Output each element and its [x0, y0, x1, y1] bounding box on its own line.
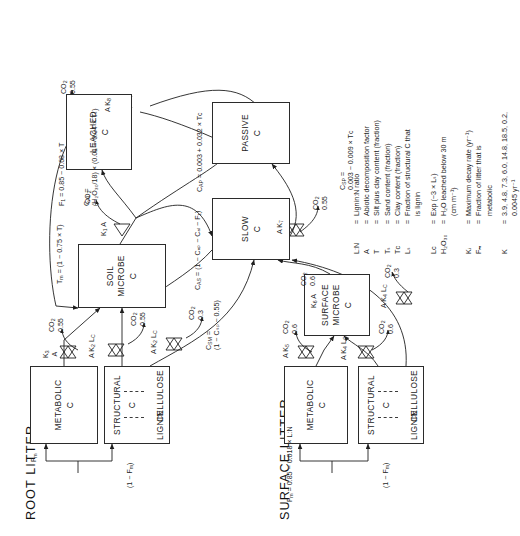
- rate-root-metabolic: K3 A: [42, 350, 59, 358]
- rate-slow: A K7: [276, 220, 285, 234]
- legend-equals: =: [383, 216, 393, 224]
- equation-csm: CSM = (1 − Cₛₚ − 0.55): [196, 300, 222, 350]
- legend-symbol: Kᵢ: [464, 224, 474, 254]
- pool-root-metabolic-name: METABOLIC: [53, 380, 64, 431]
- legend-row: K=3.9, 4.8, 7.3, 6.0, 14.8, 18.5, 0.2, 0…: [500, 112, 520, 254]
- pool-root-structural-name: STRUCTURAL: [112, 367, 123, 443]
- pool-root-metabolic[interactable]: METABOLIC C: [30, 366, 98, 444]
- equation-cal: CAL = (H₂O₃₀/18) × (0.01 + 0.04 × Tₛ): [74, 108, 100, 206]
- legend-equals: =: [439, 216, 459, 224]
- pool-root-structural-unit: C: [127, 367, 138, 443]
- arrow-surface-metabolic-to-surface-microbe: [316, 336, 334, 366]
- legend-equals: =: [500, 216, 520, 224]
- label-root-structural-fraction: (1 − Fm): [126, 463, 135, 488]
- legend-equals: =: [393, 216, 403, 224]
- pool-surface-structural-name: STRUCTURAL: [366, 367, 377, 443]
- equation-tm: Tm = (1 − 0.75 × T): [56, 224, 65, 284]
- equation-f1: F1 = 0.85 − 0.68 × T: [58, 143, 67, 206]
- rate-surface-structural-cellulose: A K4 LC: [340, 336, 349, 360]
- valve-soil-microbe: [114, 224, 130, 236]
- co2-label-surface-microbe: CO2 0.6: [300, 272, 317, 286]
- pool-root-metabolic-unit: C: [65, 402, 76, 408]
- arrow-soil-microbe-to-leached: [102, 170, 136, 218]
- legend-equals: =: [464, 216, 474, 224]
- legend-row: H₂O₃₀=H₂O leached below 30 m (cm m⁻¹): [439, 112, 459, 254]
- pool-surface-metabolic-name: METABOLIC: [305, 380, 316, 431]
- pool-slow-unit: C: [252, 226, 263, 232]
- pool-leached-unit: C: [100, 129, 111, 135]
- co2-label-leached-return: CO2 0.55: [60, 80, 77, 94]
- legend-symbol: L:N: [352, 224, 362, 254]
- pool-passive[interactable]: PASSIVE C: [212, 102, 290, 164]
- co2-label-surface-lignin: CO2 0.3: [384, 264, 401, 278]
- legend-definition: Clay content (fraction): [393, 146, 403, 216]
- rate-passive-out: A K8: [104, 98, 113, 112]
- structural-divider-right: [124, 391, 144, 392]
- line-soil-microbe-out: [120, 218, 136, 244]
- legend-symbol: Lₛ: [403, 224, 423, 254]
- legend-definition: Lignin:N ratio: [352, 174, 362, 216]
- legend-equals: =: [403, 216, 423, 224]
- rate-surface-microbe: K6 A: [310, 294, 319, 308]
- legend-equals: =: [352, 216, 362, 224]
- pool-surface-structural-unit: C: [381, 367, 392, 443]
- structural-divider-left: [124, 417, 144, 418]
- legend-row: Tᴄ=Clay content (fraction): [393, 112, 403, 254]
- pool-soil-microbe[interactable]: SOIL MICROBE C: [78, 244, 166, 308]
- legend-symbol: T: [372, 224, 382, 254]
- rate-surface-structural-lignin: A K4 LC: [380, 284, 389, 308]
- legend-definition: Abiotic decomposition factor: [362, 126, 372, 216]
- legend-row: Lₛ=Fraction of structural C that is lign…: [403, 112, 423, 254]
- pool-passive-name: PASSIVE: [240, 114, 251, 152]
- legend-symbol: Fₘ: [474, 224, 494, 254]
- pool-slow-name: SLOW: [240, 216, 251, 242]
- co2-label-root-cellulose: CO2 0.55: [130, 312, 147, 326]
- pool-surface-metabolic-unit: C: [317, 402, 328, 408]
- arrow-surface-to-metabolic: [300, 444, 332, 461]
- legend-equals: =: [474, 216, 494, 224]
- pool-soil-microbe-unit: C: [128, 273, 139, 279]
- pool-surface-structural[interactable]: STRUCTURAL C LIGNIN CELLULOSE: [358, 366, 424, 444]
- arrow-root-to-structural: [78, 444, 112, 461]
- legend-row: L:N=Lignin:N ratio: [352, 112, 362, 254]
- valve-slow: [288, 224, 304, 236]
- legend-row: Fₘ=Fraction of litter that is metabolic: [474, 112, 494, 254]
- valve-surface-lignin: [396, 292, 412, 304]
- structural-divider-left: [378, 417, 398, 418]
- valve-root-lignin: [166, 338, 182, 350]
- pool-surface-microbe-name: SURFACE MICROBE: [320, 284, 341, 326]
- legend-definition: Fraction of litter that is metabolic: [474, 145, 494, 216]
- rate-soil-microbe: K1 A: [100, 222, 109, 236]
- rate-root-structural-lignin: A K2 LC: [150, 330, 159, 354]
- equation-cap: CAP = 0.003 + 0.032 × Tᴄ: [196, 112, 205, 192]
- legend-definition: 3.9, 4.8, 7.3, 6.0, 14.8, 18.5, 0.2, 0.0…: [500, 112, 520, 216]
- co2-curl-root-cellulose: [128, 323, 144, 344]
- co2-label-root-metabolic: CO2 0.55: [48, 318, 65, 332]
- label-surface-metabolic-fraction-eq: Fm = 0.85 − 0.018 × L:N: [286, 426, 295, 502]
- structural-divider-right: [378, 391, 398, 392]
- arrow-surface-to-structural: [332, 444, 368, 461]
- legend-row: Kᵢ=Maximum decay rate (yr⁻¹): [464, 112, 474, 254]
- pool-soil-microbe-name: SOIL MICROBE: [105, 255, 126, 297]
- legend-definition: Exp (−3 × Lₛ): [429, 173, 439, 216]
- legend-row: T=Silt plus clay content (fraction): [372, 112, 382, 254]
- legend-equals: =: [429, 216, 439, 224]
- legend-definition: Fraction of structural C that is lignin: [403, 129, 423, 216]
- legend-row: A=Abiotic decomposition factor: [362, 112, 372, 254]
- legend-definition: Maximum decay rate (yr⁻¹): [464, 130, 474, 216]
- legend-symbol: A: [362, 224, 372, 254]
- arrow-root-to-metabolic: [46, 444, 78, 461]
- legend-row: Lᴄ=Exp (−3 × Lₛ): [429, 112, 439, 254]
- legend-equals: =: [372, 216, 382, 224]
- pool-surface-microbe-unit: C: [343, 302, 354, 308]
- co2-label-surface-cellulose: CO2 0.6: [378, 320, 395, 334]
- legend-symbol: Tᴄ: [393, 224, 403, 254]
- pool-surface-structural-cellulose: CELLULOSE: [409, 370, 420, 422]
- pool-root-structural[interactable]: STRUCTURAL C LIGNIN CELLULOSE: [104, 366, 170, 444]
- pool-passive-unit: C: [252, 130, 263, 136]
- co2-label-surface-metabolic: CO2 0.6: [282, 320, 299, 334]
- rate-root-structural-cellulose: A K2 LC: [88, 334, 97, 358]
- legend-row: Tₛ=Sand content (fraction): [383, 112, 393, 254]
